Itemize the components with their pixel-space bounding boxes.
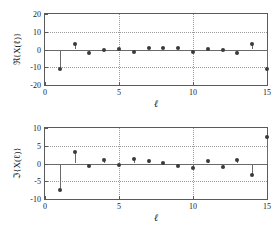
gridline-horizontal [45,67,267,68]
x-axis-tick-label: 15 [263,88,271,97]
y-axis-tick [45,85,48,86]
x-axis-tick [193,196,194,199]
x-axis-tick-label: 15 [263,202,271,211]
y-axis-tick-label: -20 [30,81,41,90]
x-axis-tick-label: 5 [117,202,121,211]
y-axis-tick [45,146,48,147]
data-point-marker [206,159,210,163]
data-point-marker [235,51,239,55]
gridline-horizontal [45,181,267,182]
data-point-marker [73,42,77,46]
y-axis-tick [45,128,48,129]
y-axis-tick [45,181,48,182]
y-axis-tick [45,50,48,51]
x-axis-tick-label: 0 [43,202,47,211]
data-point-marker [250,42,254,46]
data-point-marker [161,161,165,165]
gridline-horizontal [45,146,267,147]
data-point-marker [191,50,195,54]
y-axis-tick-label: -10 [30,63,41,72]
data-point-marker [58,67,62,71]
data-point-marker [221,165,225,169]
data-point-marker [87,51,91,55]
gridline-horizontal [45,32,267,33]
y-axis-tick-label: 0 [37,45,41,54]
data-point-marker [73,150,77,154]
x-axis-tick [267,82,268,85]
y-axis-tick [45,199,48,200]
data-point-marker [265,135,269,139]
x-axis-tick [119,82,120,85]
data-point-marker [117,163,121,167]
plot-area-imag [44,127,268,200]
y-axis-label-imag: ℑ{X(ℓ)} [11,111,21,214]
data-point-marker [102,158,106,162]
y-axis-tick-label: -10 [30,195,41,204]
x-axis-label-real: ℓ [136,98,176,109]
x-axis-tick-label: 10 [189,88,197,97]
chart-panel-real-part: ℜ{X(ℓ)} ℓ -20-1001020051015 [0,0,279,115]
y-axis-tick [45,32,48,33]
stem-baseline [45,50,267,51]
chart-panel-imag-part: ℑ{X(ℓ)} ℓ -10-50510051015 [0,114,279,229]
plot-area-real [44,13,268,86]
x-axis-tick-label: 5 [117,88,121,97]
y-axis-tick-label: 10 [33,124,41,133]
y-axis-tick [45,14,48,15]
y-axis-tick-label: 10 [33,27,41,36]
data-point-marker [117,47,121,51]
x-axis-tick [267,196,268,199]
x-axis-tick [193,82,194,85]
data-point-marker [235,158,239,162]
data-point-marker [87,164,91,168]
x-axis-label-imag: ℓ [136,212,176,223]
y-axis-tick-label: 0 [37,159,41,168]
y-axis-tick-label: -5 [34,177,41,186]
stem-baseline [45,164,267,165]
data-point-marker [191,166,195,170]
data-point-marker [206,47,210,51]
y-axis-tick-label: 5 [37,141,41,150]
x-axis-tick [119,196,120,199]
data-point-marker [265,67,269,71]
data-point-marker [221,48,225,52]
stem-line [267,137,268,164]
y-axis-tick [45,164,48,165]
data-point-marker [102,48,106,52]
stem-line [60,164,61,191]
y-axis-tick-label: 20 [33,10,41,19]
data-point-marker [132,50,136,54]
data-point-marker [132,157,136,161]
data-point-marker [58,188,62,192]
x-axis-tick-label: 0 [43,88,47,97]
figure-stem-plots: ℜ{X(ℓ)} ℓ -20-1001020051015 ℑ{X(ℓ)} ℓ -1… [0,0,279,229]
data-point-marker [147,46,151,50]
x-axis-tick-label: 10 [189,202,197,211]
y-axis-tick [45,67,48,68]
data-point-marker [250,173,254,177]
y-axis-label-real: ℜ{X(ℓ)} [11,0,21,100]
data-point-marker [176,164,180,168]
